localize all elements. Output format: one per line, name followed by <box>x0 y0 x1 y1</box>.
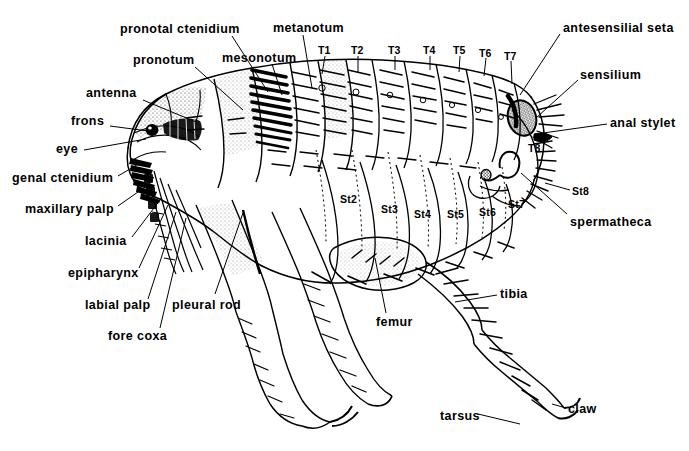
label-metanotum: metanotum <box>273 22 344 35</box>
label-pleural-rod: pleural rod <box>172 299 241 312</box>
eye-spot <box>146 124 159 136</box>
label-maxillary-palp: maxillary palp <box>25 203 114 216</box>
label-sensilium: sensilium <box>580 69 641 82</box>
label-St5: St5 <box>447 209 464 220</box>
anal-stylet <box>534 133 552 142</box>
label-T2: T2 <box>351 45 364 56</box>
femur-texture <box>335 242 420 287</box>
label-fore-coxa: fore coxa <box>108 330 167 343</box>
label-T6: T6 <box>479 48 492 59</box>
label-mesonotum: mesonotum <box>222 52 296 65</box>
label-St7: St7 <box>508 199 525 210</box>
label-eye: eye <box>56 143 78 156</box>
label-spermatheca: spermatheca <box>570 216 652 229</box>
label-St2: St2 <box>340 194 357 205</box>
label-femur: femur <box>376 316 413 329</box>
fore-leg-bristles <box>238 318 294 418</box>
label-St8: St8 <box>572 186 589 197</box>
middle-leg-bristles <box>304 284 366 392</box>
fore-coxa-texture <box>198 202 264 276</box>
label-antesensilial-seta: antesensilial seta <box>563 22 674 35</box>
label-tibia: tibia <box>500 288 528 301</box>
label-T7: T7 <box>504 51 517 62</box>
eye-highlight <box>148 126 152 129</box>
label-frons: frons <box>71 115 104 128</box>
mesonotum <box>290 61 325 176</box>
label-lacinia: lacinia <box>85 235 127 248</box>
label-antenna: antenna <box>86 87 137 100</box>
label-claw: claw <box>568 403 597 416</box>
flea-anatomy-figure: pronotal ctenidiumpronotumantennafronsey… <box>0 0 689 451</box>
label-T5: T5 <box>453 45 466 56</box>
label-St3: St3 <box>381 204 398 215</box>
label-T4: T4 <box>423 45 436 56</box>
label-T8: T8 <box>528 143 541 154</box>
label-St6: St6 <box>479 207 496 218</box>
label-anal-stylet: anal stylet <box>610 117 676 130</box>
tergite-setal-rows <box>348 70 514 134</box>
label-tarsus: tarsus <box>440 410 480 423</box>
label-pronotal-ctenidium: pronotal ctenidium <box>120 23 240 36</box>
label-labial-palp: labial palp <box>85 299 151 312</box>
label-T1: T1 <box>318 45 331 56</box>
label-genal-ctenidium: genal ctenidium <box>12 172 113 185</box>
mouthparts <box>147 171 203 274</box>
label-epipharynx: epipharynx <box>68 267 139 280</box>
label-pronotum: pronotum <box>133 54 195 67</box>
spermatheca-bulga <box>481 170 491 181</box>
label-T3: T3 <box>388 45 401 56</box>
label-St4: St4 <box>414 209 431 220</box>
